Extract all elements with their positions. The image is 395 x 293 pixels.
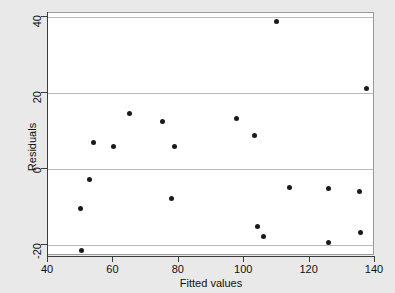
x-tick-mark	[178, 257, 179, 262]
y-axis-line	[47, 12, 48, 256]
x-tick-label: 100	[234, 263, 252, 275]
x-tick-mark	[243, 257, 244, 262]
x-tick-label: 40	[41, 263, 53, 275]
x-tick-mark	[47, 257, 48, 262]
x-axis-title: Fitted values	[47, 277, 375, 289]
data-point	[326, 186, 331, 191]
x-tick-label: 120	[299, 263, 317, 275]
data-point	[127, 111, 132, 116]
data-point	[252, 133, 257, 138]
data-point	[274, 19, 279, 24]
data-point	[261, 234, 266, 239]
data-point	[234, 116, 239, 121]
x-tick-mark	[112, 257, 113, 262]
data-point	[326, 240, 331, 245]
data-point	[79, 248, 84, 253]
data-point	[172, 144, 177, 149]
x-tick-label: 140	[365, 263, 383, 275]
data-point	[111, 144, 116, 149]
data-point	[357, 189, 362, 194]
data-point	[287, 185, 292, 190]
gridline	[48, 245, 373, 246]
data-point	[91, 140, 96, 145]
data-point	[255, 224, 260, 229]
residuals-scatter-figure: Residuals Fitted values -200204040608010…	[0, 0, 395, 293]
x-tick-label: 80	[172, 263, 184, 275]
gridline	[48, 93, 373, 94]
y-tick-label: 40	[31, 15, 43, 27]
data-point	[87, 177, 92, 182]
y-tick-label: 20	[31, 91, 43, 103]
x-tick-mark	[374, 257, 375, 262]
x-tick-mark	[309, 257, 310, 262]
gridline	[48, 169, 373, 170]
plot-area	[47, 12, 374, 255]
data-point	[364, 86, 369, 91]
data-point	[160, 119, 165, 124]
y-tick-label: 0	[31, 167, 43, 173]
x-tick-label: 60	[106, 263, 118, 275]
x-axis-line	[47, 256, 375, 257]
gridline	[48, 17, 373, 18]
data-point	[169, 196, 174, 201]
y-axis-title: Residuals	[26, 122, 38, 170]
data-point	[358, 230, 363, 235]
data-point	[78, 206, 83, 211]
y-tick-label: -20	[31, 243, 43, 259]
